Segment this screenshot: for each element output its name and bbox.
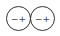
battery-cell-2: − + [30,6,55,31]
battery-cell-1: − + [6,6,31,31]
negative-terminal-label: − [11,14,19,23]
positive-terminal-label: + [42,14,50,23]
negative-terminal-label: − [35,14,43,23]
positive-terminal-label: + [18,14,26,23]
